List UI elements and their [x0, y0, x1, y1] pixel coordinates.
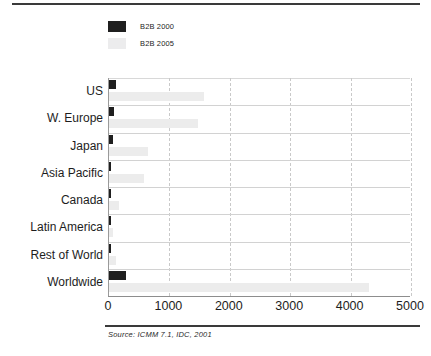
y-axis-label-japan: Japan: [0, 133, 103, 160]
bar-b2b-2005: [109, 256, 116, 265]
bar-b2b-2005: [109, 119, 198, 128]
bar-group-asia-pacific: [109, 160, 410, 187]
legend-item-b2b-2005: B2B 2005: [108, 35, 174, 52]
y-axis-label-w-europe: W. Europe: [0, 105, 103, 132]
bar-b2b-2000: [109, 107, 114, 116]
x-axis-tick-5000: 5000: [396, 299, 424, 313]
x-axis-tick-2000: 2000: [215, 299, 243, 313]
bar-group-japan: [109, 133, 410, 160]
legend-swatch-icon-b2b-2005: [108, 38, 126, 49]
bar-group-rest-of-world: [109, 242, 410, 269]
bar-b2b-2000: [109, 189, 111, 198]
legend-label-b2b-2000: B2B 2000: [140, 22, 174, 31]
y-axis-label-latin-america: Latin America: [0, 214, 103, 241]
x-axis-tick-4000: 4000: [336, 299, 364, 313]
bar-b2b-2000: [109, 271, 126, 280]
bar-group-canada: [109, 187, 410, 214]
legend-label-b2b-2005: B2B 2005: [140, 39, 174, 48]
y-axis-label-us: US: [0, 78, 103, 105]
x-axis-tick-0: 0: [105, 299, 112, 313]
bar-group-us: [109, 78, 410, 105]
x-axis-line: [108, 296, 410, 297]
bar-b2b-2005: [109, 228, 113, 237]
bar-b2b-2005: [109, 92, 204, 101]
bar-b2b-2005: [109, 201, 119, 210]
x-axis-tick-1000: 1000: [154, 299, 182, 313]
bar-b2b-2000: [109, 135, 113, 144]
bar-b2b-2005: [109, 147, 148, 156]
bar-b2b-2000: [109, 162, 111, 171]
y-axis-category-labels: USW. EuropeJapanAsia PacificCanadaLatin …: [0, 78, 103, 296]
source-note: Source: ICMM 7.1, IDC, 2001: [108, 330, 212, 339]
bar-b2b-2005: [109, 283, 369, 292]
top-divider-rule: [12, 3, 420, 5]
y-axis-label-asia-pacific: Asia Pacific: [0, 160, 103, 187]
x-axis-tick-3000: 3000: [275, 299, 303, 313]
bar-group-worldwide: [109, 269, 410, 296]
y-axis-label-canada: Canada: [0, 187, 103, 214]
plot-area: [108, 78, 410, 296]
chart-legend: B2B 2000 B2B 2005: [108, 18, 174, 52]
bar-b2b-2000: [109, 244, 111, 253]
bar-b2b-2000: [109, 216, 111, 225]
bar-b2b-2000: [109, 80, 116, 89]
legend-swatch-icon-b2b-2000: [108, 21, 126, 32]
y-axis-label-rest-of-world: Rest of World: [0, 242, 103, 269]
bottom-divider-rule: [105, 325, 420, 327]
bar-group-latin-america: [109, 214, 410, 241]
bar-b2b-2005: [109, 174, 144, 183]
legend-item-b2b-2000: B2B 2000: [108, 18, 174, 35]
bar-group-w-europe: [109, 105, 410, 132]
gridline-vertical-5000: [411, 78, 412, 296]
y-axis-label-worldwide: Worldwide: [0, 269, 103, 296]
